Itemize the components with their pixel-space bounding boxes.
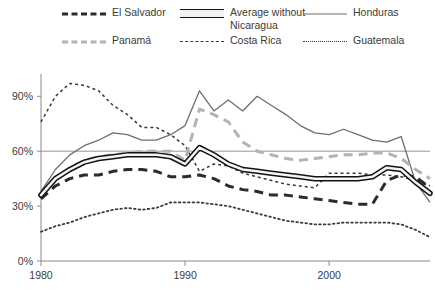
legend-swatch-honduras — [303, 7, 347, 21]
series-line-honduras — [41, 91, 430, 203]
x-tick-label-1990: 1990 — [173, 269, 197, 281]
chart-plot-area: 0%30%60%90% 198019902000 — [0, 60, 435, 292]
y-tick-label-60: 60% — [12, 145, 33, 157]
legend-label-el-salvador: El Salvador — [112, 6, 166, 19]
x-tick-label-1980: 1980 — [29, 269, 53, 281]
legend-label-panama: Panamá — [112, 34, 151, 47]
legend-item-honduras[interactable]: Honduras — [303, 6, 399, 21]
line-chart-svg: 0%30%60%90% 198019902000 — [0, 60, 435, 292]
legend-item-panama[interactable]: Panamá — [62, 34, 151, 49]
legend-label-guatemala: Guatemala — [353, 34, 404, 47]
y-tick-label-0: 0% — [18, 255, 33, 267]
y-tick-label-90: 90% — [12, 90, 33, 102]
series-line-average-without-nicaragua-inner — [41, 148, 430, 196]
y-tick-label-30: 30% — [12, 200, 33, 212]
legend-swatch-guatemala — [303, 35, 347, 49]
x-tick-label-2000: 2000 — [317, 269, 341, 281]
legend-label-costa-rica: Costa Rica — [230, 34, 281, 47]
series-line-average-without-nicaragua-outer — [41, 148, 430, 196]
legend-item-el-salvador[interactable]: El Salvador — [62, 6, 166, 21]
legend-swatch-average-without-nicaragua — [180, 7, 224, 21]
legend-swatch-el-salvador — [62, 7, 106, 21]
chart-x-axis — [41, 261, 430, 266]
series-line-costa-rica — [41, 83, 430, 187]
legend-item-average-without-nicaragua[interactable]: Average without Nicaragua — [180, 6, 322, 31]
legend-item-guatemala[interactable]: Guatemala — [303, 34, 404, 49]
chart-y-tick-labels: 0%30%60%90% — [12, 90, 33, 267]
legend-swatch-costa-rica — [180, 35, 224, 49]
legend-label-honduras: Honduras — [353, 6, 399, 19]
series-line-panam — [41, 109, 430, 195]
series-line-guatemala — [41, 202, 430, 237]
legend-item-costa-rica[interactable]: Costa Rica — [180, 34, 281, 49]
chart-page: El Salvador Average without Nicaragua Ho… — [0, 0, 435, 292]
chart-series-group — [41, 83, 430, 237]
chart-x-tick-labels: 198019902000 — [29, 269, 341, 281]
legend-swatch-panama — [62, 35, 106, 49]
chart-y-axis — [37, 74, 41, 261]
chart-legend: El Salvador Average without Nicaragua Ho… — [0, 0, 435, 60]
